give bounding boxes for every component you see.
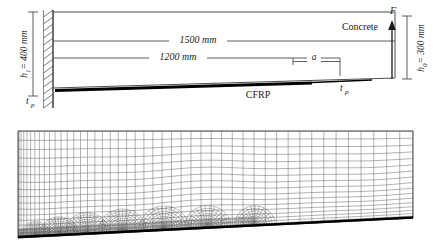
span-total-label: 1500 mm — [180, 34, 217, 45]
cfrp-strip — [55, 80, 372, 91]
crack-length-label-group: a — [307, 52, 321, 63]
thickness-right-sub: p — [344, 88, 349, 96]
thickness-right-main: t — [340, 83, 343, 93]
span-bonded-label: 1200 mm — [160, 51, 197, 62]
fixed-support-wall — [44, 10, 54, 108]
thickness-label-left: t p — [26, 96, 35, 109]
height-left-label-group: h1= 400 mm — [19, 30, 32, 78]
cfrp-label: CFRP — [246, 89, 271, 100]
dimension-label-1200: 1200 mm — [149, 50, 207, 63]
finite-element-mesh-panel — [0, 118, 433, 252]
force-label: F — [389, 5, 397, 16]
schematic-svg: 1500 mm 1200 mm a CFRP — [0, 0, 433, 120]
wall-hatching — [44, 10, 54, 108]
concrete-label: Concrete — [342, 21, 379, 32]
height-right-label: h0= 300 mm — [416, 24, 429, 72]
dimension-lines — [53, 41, 395, 76]
thickness-left-sub: p — [30, 101, 35, 109]
height-right-dimension — [402, 16, 412, 79]
crack-length-label: a — [312, 52, 317, 62]
thickness-left-main: t — [26, 96, 29, 106]
dimension-label-1500: 1500 mm — [169, 33, 227, 46]
figure-root: 1500 mm 1200 mm a CFRP — [0, 0, 433, 252]
geometry-schematic-panel: 1500 mm 1200 mm a CFRP — [0, 0, 433, 120]
height-left-label: h1= 400 mm — [19, 30, 32, 78]
height-right-label-group: h0= 300 mm — [416, 24, 429, 72]
mesh-svg — [0, 118, 433, 252]
thickness-label-right: t p — [340, 83, 349, 96]
height-left-dimension — [28, 12, 38, 96]
